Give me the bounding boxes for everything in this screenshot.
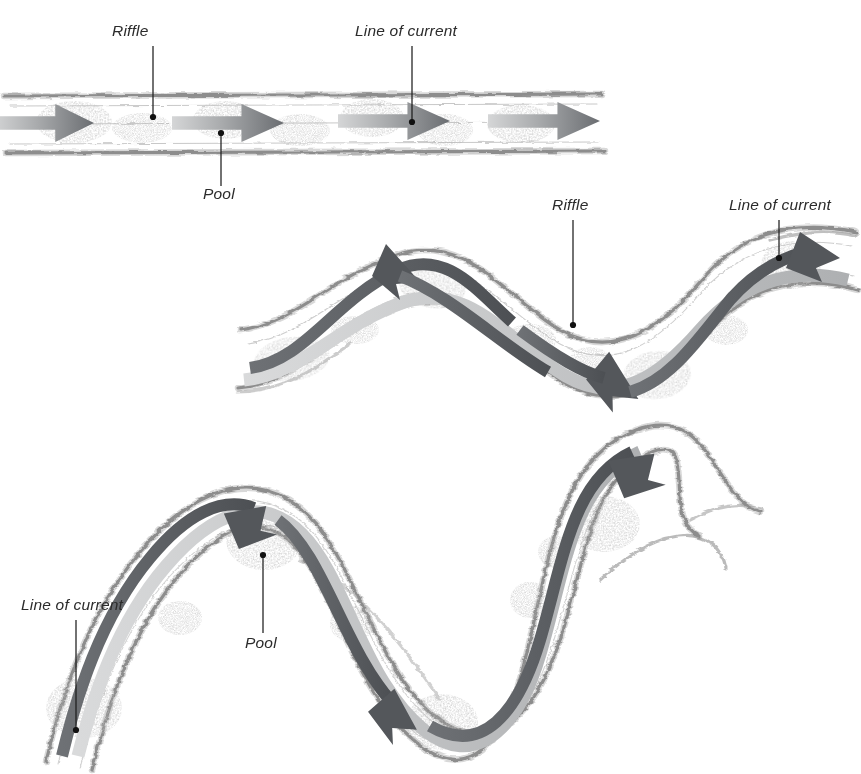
label-text: Line of current [729, 196, 832, 213]
label-text: Line of current [21, 596, 124, 613]
panel-straight: Riffle Line of current Pool [0, 22, 604, 202]
label-text: Pool [203, 185, 235, 202]
leader-dot [409, 119, 415, 125]
label-pool-top: Pool [203, 130, 235, 202]
leader-dot [570, 322, 576, 328]
label-text: Riffle [552, 196, 589, 213]
label-text: Riffle [112, 22, 149, 39]
leader-dot [218, 130, 224, 136]
leader-dot [150, 114, 156, 120]
leader-dot [260, 552, 266, 558]
panel-sinuous: Riffle Line of current [238, 196, 858, 415]
panel-meandering: Line of current Pool [21, 425, 762, 770]
label-text: Pool [245, 634, 277, 651]
leader-dot [776, 255, 782, 261]
label-riffle-mid: Riffle [552, 196, 589, 328]
leader-dot [73, 727, 79, 733]
stream-pattern-diagram: Riffle Line of current Pool [0, 0, 861, 774]
straight-panel-labels: Riffle Line of current Pool [112, 22, 458, 202]
label-text: Line of current [355, 22, 458, 39]
diagram-canvas: Riffle Line of current Pool [0, 0, 861, 774]
sinuous-gravel-deposits [251, 241, 821, 402]
